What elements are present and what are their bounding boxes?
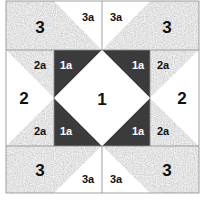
quilt-block-diagram: 3 3 3 3 3a 3a 3a 3a 2 2 2a 2a 2a 2a 1a 1… <box>0 0 201 201</box>
label-1a-top-left: 1a <box>60 59 73 71</box>
label-3a-bottom-left: 3a <box>82 173 95 185</box>
label-2-right: 2 <box>177 89 186 108</box>
label-2a-right-top: 2a <box>157 59 170 71</box>
label-3a-top-left: 3a <box>82 11 95 23</box>
label-3-bottom-left: 3 <box>35 161 44 180</box>
label-3-top-left: 3 <box>35 18 44 37</box>
label-3a-top-right: 3a <box>110 11 123 23</box>
label-3-bottom-right: 3 <box>162 161 171 180</box>
label-2a-left-top: 2a <box>34 59 47 71</box>
label-2a-left-bottom: 2a <box>34 125 47 137</box>
label-1a-top-right: 1a <box>132 59 145 71</box>
label-3a-bottom-right: 3a <box>110 173 123 185</box>
label-1a-bottom-left: 1a <box>60 125 73 137</box>
label-1-center: 1 <box>97 90 106 109</box>
label-2a-right-bottom: 2a <box>157 125 170 137</box>
label-3-top-right: 3 <box>162 18 171 37</box>
label-2-left: 2 <box>19 89 28 108</box>
label-1a-bottom-right: 1a <box>132 125 145 137</box>
